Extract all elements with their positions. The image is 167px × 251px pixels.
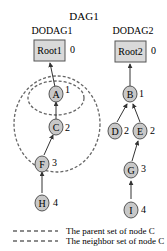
node-F-rank: 3: [52, 157, 57, 168]
svg-text:C: C: [53, 122, 60, 133]
legend: The parent set of node C The neighbor se…: [13, 226, 164, 246]
svg-text:D: D: [111, 126, 118, 137]
legend-neighbor-label: The neighbor set of node C: [66, 236, 164, 246]
node-C: C: [49, 119, 63, 135]
node-G: G: [124, 162, 138, 178]
node-H: H: [35, 195, 49, 211]
node-B-rank: 1: [139, 88, 144, 99]
svg-text:F: F: [39, 159, 45, 170]
svg-text:G: G: [127, 165, 134, 176]
dodag2-label: DODAG2: [112, 25, 153, 36]
edge-G-E: [132, 141, 138, 161]
node-H-rank: 4: [53, 197, 58, 208]
edge-D-B: [117, 104, 127, 122]
node-E: E: [133, 123, 147, 139]
svg-text:I: I: [129, 205, 132, 216]
legend-parent-label: The parent set of node C: [66, 226, 155, 236]
node-C-rank: 2: [65, 122, 70, 133]
edge-F-C: [44, 135, 53, 155]
node-I-rank: 4: [141, 204, 146, 215]
root1-node: Root1: [34, 40, 65, 61]
dag-diagram: DAG1 DODAG1 DODAG2 Root1 0 Root2 0 A 1 C…: [0, 0, 167, 251]
node-G-rank: 3: [141, 163, 146, 174]
node-D: D: [108, 123, 122, 139]
root1-rank: 0: [70, 44, 75, 55]
dodag1-label: DODAG1: [31, 25, 72, 36]
diagram-title: DAG1: [69, 10, 98, 22]
root2-node: Root2: [115, 41, 146, 62]
svg-text:B: B: [127, 89, 134, 100]
node-I: I: [124, 202, 138, 218]
edge-E-B: [133, 104, 140, 122]
node-A-rank: 1: [65, 84, 70, 95]
node-F: F: [35, 156, 49, 172]
svg-text:H: H: [38, 198, 45, 209]
node-A: A: [49, 86, 63, 102]
node-B: B: [123, 86, 137, 102]
node-D-rank: 2: [124, 125, 129, 136]
node-E-rank: 2: [150, 125, 155, 136]
root1-label: Root1: [37, 45, 61, 56]
edge-A-root1: [50, 63, 55, 87]
root2-rank: 0: [151, 45, 156, 56]
svg-text:E: E: [137, 126, 143, 137]
svg-text:A: A: [52, 89, 60, 100]
root2-label: Root2: [118, 46, 142, 57]
